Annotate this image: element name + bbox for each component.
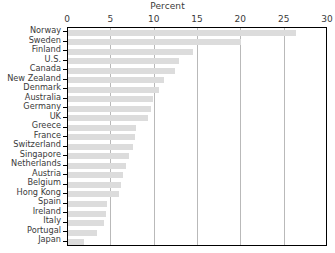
bar	[68, 125, 136, 131]
x-tick-label: 30	[321, 14, 332, 24]
y-tick-mark	[63, 203, 67, 204]
x-tick-label: 20	[235, 14, 246, 24]
y-tick-label: Japan	[38, 235, 61, 245]
bar	[68, 68, 175, 74]
y-tick-mark	[63, 31, 67, 32]
y-tick-mark	[63, 193, 67, 194]
bar	[68, 220, 104, 226]
bar	[68, 191, 119, 197]
bar-row	[68, 209, 326, 219]
y-tick-mark	[63, 79, 67, 80]
bar	[68, 230, 97, 236]
bar-row	[68, 76, 326, 86]
bar-row	[68, 57, 326, 67]
y-axis-category-labels: NorwaySwedenFinlandU.S.CanadaNew Zealand…	[0, 27, 67, 246]
y-tick-mark	[63, 88, 67, 89]
y-tick-mark	[63, 136, 67, 137]
chart-page: Percent 051015202530 NorwaySwedenFinland…	[0, 0, 335, 253]
x-tick-label: 5	[107, 14, 113, 24]
y-tick-mark	[63, 212, 67, 213]
bar	[68, 201, 107, 207]
bar	[68, 144, 133, 150]
x-tick-label: 25	[278, 14, 289, 24]
y-tick-mark	[63, 50, 67, 51]
bar-row	[68, 190, 326, 200]
bar	[68, 30, 296, 36]
y-tick-mark	[63, 184, 67, 185]
bar-row	[68, 114, 326, 124]
bar-row	[68, 228, 326, 238]
bar-row	[68, 47, 326, 57]
bar	[68, 77, 164, 83]
bar-row	[68, 123, 326, 133]
y-tick-mark	[63, 41, 67, 42]
bar	[68, 49, 193, 55]
y-tick-row: Japan	[0, 236, 67, 246]
bar	[68, 134, 135, 140]
bar	[68, 163, 126, 169]
bar-row	[68, 66, 326, 76]
bar-row	[68, 199, 326, 209]
bar-row	[68, 133, 326, 143]
bar	[68, 87, 159, 93]
bar	[68, 58, 179, 64]
bar	[68, 211, 106, 217]
bar	[68, 239, 84, 245]
bar-row	[68, 237, 326, 247]
plot-area	[67, 27, 327, 246]
chart-title: Percent	[0, 1, 335, 11]
bar-row	[68, 85, 326, 95]
y-tick-mark	[63, 98, 67, 99]
bar-series	[68, 28, 326, 245]
bar	[68, 96, 153, 102]
bar	[68, 39, 241, 45]
y-tick-mark	[63, 222, 67, 223]
bar-row	[68, 152, 326, 162]
bar	[68, 153, 129, 159]
y-tick-mark	[63, 241, 67, 242]
bar	[68, 106, 151, 112]
bar-row	[68, 38, 326, 48]
bar-row	[68, 28, 326, 38]
bar-row	[68, 95, 326, 105]
bar-row	[68, 161, 326, 171]
y-tick-mark	[63, 155, 67, 156]
y-tick-mark	[63, 127, 67, 128]
y-tick-mark	[63, 117, 67, 118]
y-tick-mark	[63, 231, 67, 232]
bar	[68, 115, 148, 121]
y-tick-mark	[63, 165, 67, 166]
y-tick-mark	[63, 146, 67, 147]
x-tick-label: 10	[148, 14, 159, 24]
x-tick-label: 15	[191, 14, 202, 24]
y-tick-mark	[63, 174, 67, 175]
bar-row	[68, 171, 326, 181]
x-tick-label: 0	[64, 14, 70, 24]
bar-row	[68, 104, 326, 114]
bar-row	[68, 218, 326, 228]
y-tick-mark	[63, 69, 67, 70]
y-tick-mark	[63, 60, 67, 61]
bar-row	[68, 180, 326, 190]
bar	[68, 182, 121, 188]
bar-row	[68, 142, 326, 152]
y-tick-mark	[63, 107, 67, 108]
bar	[68, 172, 123, 178]
